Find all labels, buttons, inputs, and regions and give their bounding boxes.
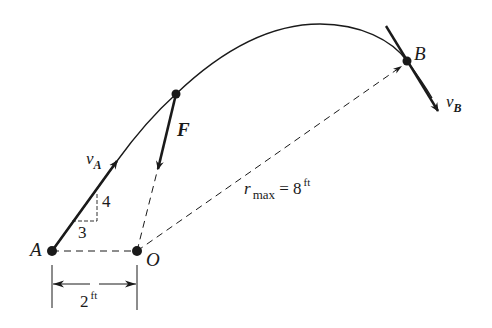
rmax-value: 8	[293, 179, 302, 198]
label-F: F	[177, 120, 190, 139]
rmax-subscript: max	[253, 187, 275, 202]
force-F-arrow	[158, 94, 176, 169]
vA-subscript: A	[94, 158, 102, 172]
point-O	[132, 246, 142, 256]
rmax-unit: ft	[304, 176, 311, 188]
slope-run-label: 3	[78, 224, 87, 241]
vA-symbol: v	[86, 149, 94, 168]
rmax-label: rmax = 8ft	[244, 180, 310, 197]
rmax-symbol: r	[244, 179, 251, 198]
vB-arrow	[386, 26, 438, 111]
trajectory-curve	[52, 24, 432, 251]
vB-subscript: B	[454, 101, 462, 115]
vB-symbol: v	[446, 92, 454, 111]
dim-AO-unit: ft	[91, 289, 98, 301]
point-B	[403, 57, 412, 66]
label-O: O	[146, 250, 160, 269]
dim-AO-label: 2ft	[80, 293, 97, 310]
label-vB: vB	[446, 93, 462, 110]
dashed-line-O-to-F	[137, 168, 158, 251]
point-A	[47, 246, 57, 256]
point-F	[172, 90, 181, 99]
label-vA: vA	[86, 150, 102, 167]
dim-AO-value: 2	[80, 292, 89, 311]
label-A: A	[30, 240, 42, 259]
slope-rise-label: 4	[102, 193, 111, 210]
label-B: B	[414, 44, 426, 63]
rmax-equals: =	[279, 179, 289, 198]
